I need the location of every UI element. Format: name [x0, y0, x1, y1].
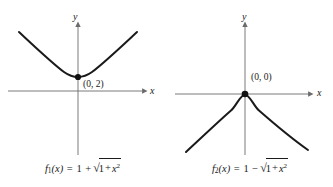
figure-root: y x (0, 2) f1(x) = 1 +√1+x2 [0, 0, 333, 187]
caption-right-argument: (x) [219, 163, 231, 174]
caption-right-radicand: 1+x2 [266, 158, 288, 176]
caption-left-radical-group: √1+x2 [92, 158, 121, 176]
graph-panel-left: y x (0, 2) f1(x) = 1 +√1+x2 [0, 0, 166, 187]
caption-left-equals: = [66, 163, 74, 174]
caption-right-operator: − [251, 163, 259, 174]
caption-right: f2(x) = 1 −√1+x2 [167, 158, 333, 178]
plot-right [167, 0, 333, 160]
x-axis-label-right: x [317, 88, 321, 98]
caption-right-radicand-op: + [271, 162, 279, 173]
caption-left-radicand-exp: 2 [117, 162, 121, 170]
caption-right-radical-group: √1+x2 [259, 158, 288, 176]
caption-left-constant: 1 [76, 163, 81, 174]
vertex-marker-left [75, 74, 81, 80]
caption-left-argument: (x) [52, 163, 64, 174]
caption-left-operator: + [84, 163, 92, 174]
caption-left: f1(x) = 1 +√1+x2 [0, 158, 166, 178]
caption-right-constant: 1 [243, 163, 248, 174]
graph-panel-right: y x (0, 0) f2(x) = 1 −√1+x2 [167, 0, 333, 187]
y-axis-label-right: y [242, 12, 246, 22]
vertex-marker-right [242, 91, 249, 98]
y-axis-label-left: y [73, 12, 77, 22]
x-axis-label-left: x [150, 86, 154, 96]
caption-right-equals: = [233, 163, 241, 174]
curve-f2 [186, 95, 308, 153]
caption-right-radicand-exp: 2 [284, 162, 288, 170]
point-label-left: (0, 2) [83, 79, 104, 89]
caption-left-radicand-op: + [104, 162, 112, 173]
point-label-right: (0, 0) [251, 72, 272, 82]
caption-left-radicand: 1+x2 [99, 158, 121, 176]
